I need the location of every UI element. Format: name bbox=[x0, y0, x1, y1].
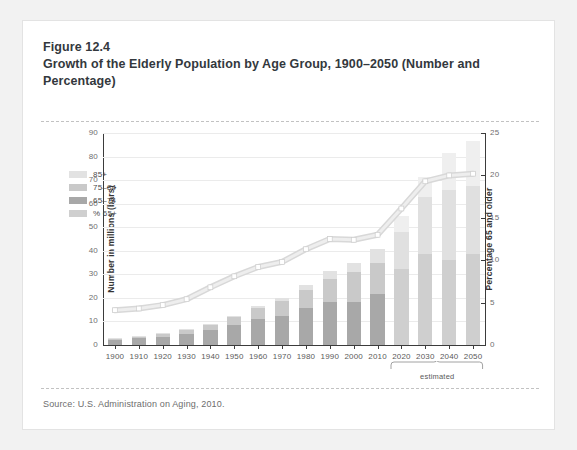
legend-swatch-75-84 bbox=[69, 184, 87, 191]
bar-segment bbox=[466, 186, 480, 255]
bar-segment bbox=[299, 290, 313, 308]
x-tick-mark bbox=[401, 345, 402, 349]
bar-segment bbox=[299, 308, 313, 345]
x-tick-mark bbox=[306, 345, 307, 349]
legend-label-65-74: 65–74 bbox=[93, 196, 116, 205]
bar-segment bbox=[227, 316, 241, 317]
bar-segment bbox=[203, 330, 217, 345]
bar-group bbox=[227, 316, 241, 345]
y-tick-label-left: 10 bbox=[78, 317, 98, 325]
x-tick-mark bbox=[354, 345, 355, 349]
x-tick-mark bbox=[282, 345, 283, 349]
bar-segment bbox=[179, 334, 193, 345]
bar-segment bbox=[203, 325, 217, 330]
y-tick-label-left: 50 bbox=[78, 223, 98, 231]
legend-label-75-84: 75–84 bbox=[93, 183, 116, 192]
y-tick-label-left: 90 bbox=[78, 129, 98, 137]
bar-segment bbox=[323, 302, 337, 345]
bar-segment bbox=[275, 316, 289, 345]
bar-group bbox=[275, 298, 289, 345]
y-tick-label-left: 40 bbox=[78, 247, 98, 255]
x-tick-mark bbox=[258, 345, 259, 349]
x-tick-mark bbox=[187, 345, 188, 349]
axis-right bbox=[485, 133, 486, 345]
bar-segment bbox=[394, 269, 408, 345]
bar-segment bbox=[347, 263, 361, 273]
x-tick-mark bbox=[473, 345, 474, 349]
bar-segment bbox=[418, 254, 432, 345]
figure-caption: Growth of the Elderly Population by Age … bbox=[43, 56, 537, 90]
y-tick-label-right: 20 bbox=[490, 171, 510, 179]
legend-swatch-65-74 bbox=[69, 197, 87, 204]
bar-group bbox=[442, 153, 456, 345]
axis-left bbox=[103, 133, 104, 345]
y-tick-label-right: 25 bbox=[490, 129, 510, 137]
x-tick-mark bbox=[449, 345, 450, 349]
plot-area: Number in millions (bars) Percentage 65 … bbox=[103, 133, 485, 345]
bar-segment bbox=[132, 338, 146, 345]
x-tick-mark bbox=[330, 345, 331, 349]
legend-label-percent-65-plus: % 65+ bbox=[93, 209, 117, 218]
bar-group bbox=[179, 329, 193, 345]
bar-segment bbox=[323, 279, 337, 303]
y-tick-label-right: 5 bbox=[490, 299, 510, 307]
figure-card: Figure 12.4 Growth of the Elderly Popula… bbox=[22, 20, 555, 430]
bar-segment bbox=[179, 329, 193, 330]
y-tick-mark-right bbox=[481, 260, 485, 261]
y-tick-label-right: 0 bbox=[490, 341, 510, 349]
figure-number: Figure 12.4 bbox=[43, 39, 537, 56]
y-tick-mark-right bbox=[481, 133, 485, 134]
bar-segment bbox=[394, 216, 408, 232]
estimated-label: estimated bbox=[397, 372, 477, 381]
bar-group bbox=[347, 263, 361, 345]
y-tick-label-right: 10 bbox=[490, 256, 510, 264]
bar-segment bbox=[251, 308, 265, 319]
y-tick-label-left: 0 bbox=[78, 341, 98, 349]
bar-segment bbox=[370, 263, 384, 294]
bar-segment bbox=[370, 294, 384, 345]
bar-segment bbox=[227, 317, 241, 325]
bar-segment bbox=[299, 285, 313, 290]
x-tick-mark bbox=[425, 345, 426, 349]
bar-segment bbox=[442, 260, 456, 345]
bar-segment bbox=[179, 330, 193, 334]
legend-swatch-85-plus bbox=[69, 171, 87, 178]
y-tick-mark-right bbox=[481, 345, 485, 346]
bar-group bbox=[132, 336, 146, 345]
bar-group bbox=[394, 216, 408, 345]
x-tick-mark bbox=[210, 345, 211, 349]
x-tick-mark bbox=[163, 345, 164, 349]
bar-group bbox=[108, 338, 122, 345]
bar-segment bbox=[132, 336, 146, 338]
bar-segment bbox=[156, 337, 170, 345]
bar-group bbox=[418, 177, 432, 345]
bar-segment bbox=[108, 338, 122, 340]
bar-segment bbox=[203, 324, 217, 325]
figure-source: Source: U.S. Administration on Aging, 20… bbox=[43, 399, 225, 409]
bar-segment bbox=[466, 254, 480, 345]
bar-segment bbox=[251, 319, 265, 345]
x-tick-mark bbox=[234, 345, 235, 349]
bar-group bbox=[370, 249, 384, 345]
x-tick-mark bbox=[115, 345, 116, 349]
x-tick-mark bbox=[139, 345, 140, 349]
divider-bottom bbox=[41, 388, 539, 389]
bar-segment bbox=[466, 141, 480, 186]
bar-segment bbox=[275, 298, 289, 301]
bar-segment bbox=[418, 197, 432, 254]
legend-item-85-plus: 85+ bbox=[69, 169, 117, 180]
figure-title-block: Figure 12.4 Growth of the Elderly Popula… bbox=[43, 39, 537, 90]
estimated-brace-svg bbox=[390, 361, 484, 370]
bar-segment bbox=[156, 334, 170, 337]
legend-label-85-plus: 85+ bbox=[93, 170, 107, 179]
gridline bbox=[103, 157, 485, 158]
bar-group bbox=[156, 333, 170, 345]
chart-legend: 85+ 75–84 65–74 % 65+ bbox=[69, 169, 117, 221]
bar-segment bbox=[442, 153, 456, 189]
y-tick-mark-right bbox=[481, 218, 485, 219]
y-tick-label-left: 20 bbox=[78, 294, 98, 302]
legend-item-65-74: 65–74 bbox=[69, 195, 117, 206]
bar-group bbox=[323, 271, 337, 345]
bar-segment bbox=[347, 302, 361, 345]
y-tick-label-left: 30 bbox=[78, 270, 98, 278]
